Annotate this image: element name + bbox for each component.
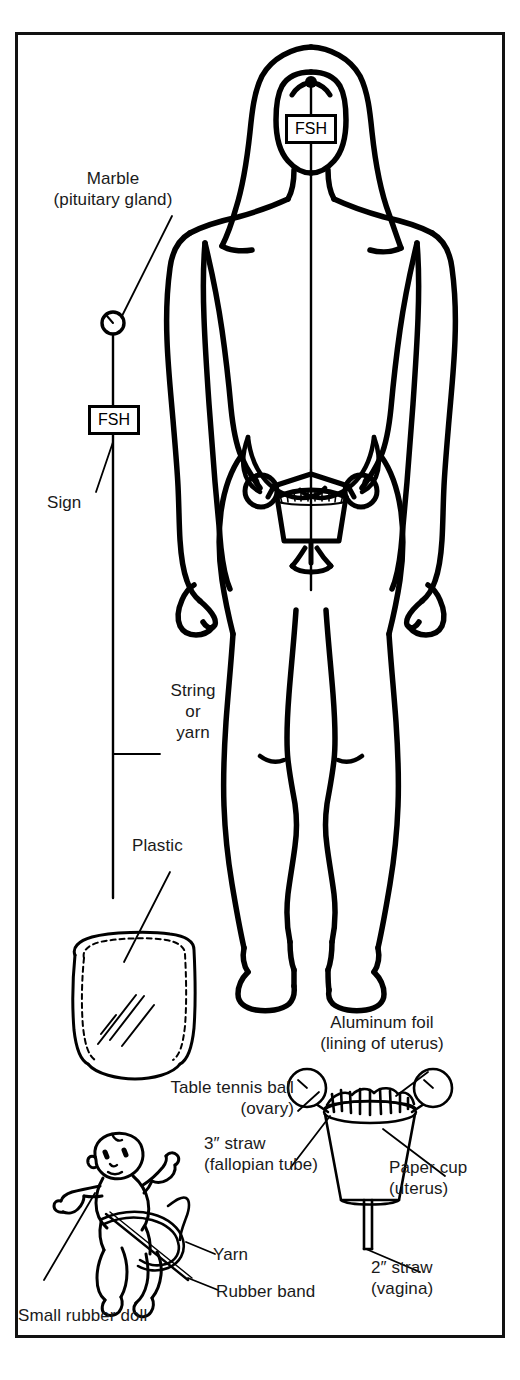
label-string-line3: yarn	[155, 722, 231, 743]
label-rubber-band: Rubber band	[216, 1281, 315, 1302]
fsh-sign-head: FSH	[285, 114, 337, 144]
label-2in-straw: 2″ straw (vagina)	[371, 1257, 433, 1299]
label-sign-text: Sign	[47, 493, 81, 512]
label-marble: Marble (pituitary gland)	[8, 168, 218, 210]
label-yarn-text: Yarn	[213, 1245, 248, 1264]
label-table-tennis-ball: Table tennis ball (ovary)	[68, 1077, 294, 1119]
label-yarn: Yarn	[213, 1244, 248, 1265]
label-straw3-line1: 3″ straw	[204, 1133, 318, 1154]
fsh-sign-string: FSH	[88, 405, 140, 435]
label-straw3-line2: (fallopian tube)	[204, 1154, 318, 1175]
label-sign: Sign	[47, 492, 81, 513]
label-rubber-band-text: Rubber band	[216, 1282, 315, 1301]
label-aluminum-line1: Aluminum foil	[282, 1012, 482, 1033]
label-tabletennis-line2: (ovary)	[68, 1098, 294, 1119]
label-papercup-line1: Paper cup	[389, 1157, 467, 1178]
label-straw2-line1: 2″ straw	[371, 1257, 433, 1278]
label-aluminum-line2: (lining of uterus)	[282, 1033, 482, 1054]
label-aluminum-foil: Aluminum foil (lining of uterus)	[282, 1012, 482, 1054]
label-string-line1: String	[155, 680, 231, 701]
label-tabletennis-line1: Table tennis ball	[68, 1077, 294, 1098]
label-plastic-text: Plastic	[132, 836, 183, 855]
label-straw2-line2: (vagina)	[371, 1278, 433, 1299]
label-string-or-yarn: String or yarn	[155, 680, 231, 743]
label-small-rubber-doll-text: Small rubber doll	[18, 1306, 147, 1325]
label-marble-line2: (pituitary gland)	[8, 189, 218, 210]
label-plastic: Plastic	[132, 835, 183, 856]
label-marble-line1: Marble	[8, 168, 218, 189]
label-small-rubber-doll: Small rubber doll	[18, 1305, 147, 1326]
diagram-page: FSH FSH Marble (pituitary gland) Sign St…	[0, 0, 520, 1380]
label-string-line2: or	[155, 701, 231, 722]
label-papercup-line2: (uterus)	[389, 1178, 467, 1199]
fsh-sign-string-text: FSH	[98, 412, 130, 428]
fsh-sign-head-text: FSH	[295, 121, 327, 137]
label-3in-straw: 3″ straw (fallopian tube)	[204, 1133, 318, 1175]
label-paper-cup: Paper cup (uterus)	[389, 1157, 467, 1199]
